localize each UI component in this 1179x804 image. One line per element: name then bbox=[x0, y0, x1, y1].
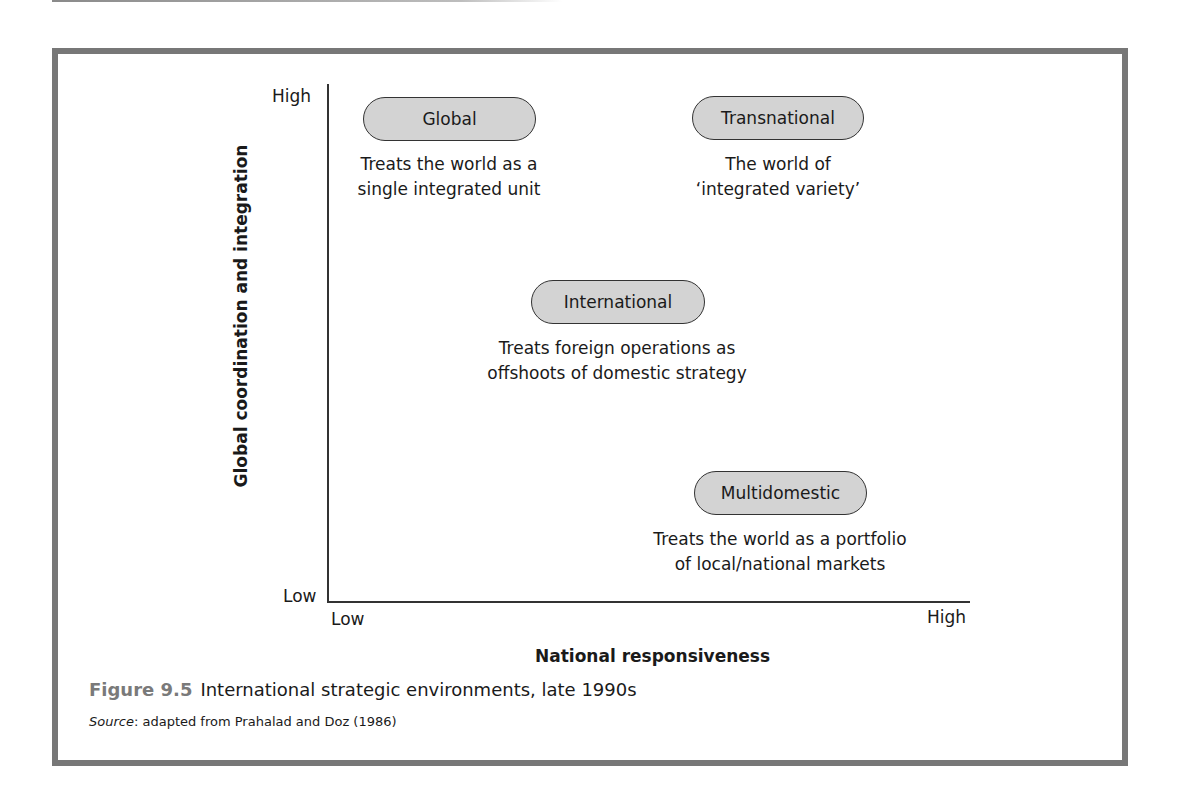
multidomestic-description-line-2: of local/national markets bbox=[653, 552, 906, 577]
transnational-description-line-1: The world of bbox=[696, 152, 860, 177]
y-axis-line bbox=[327, 84, 329, 603]
transnational-description: The world of ‘integrated variety’ bbox=[696, 152, 860, 202]
figure-source: Source: adapted from Prahalad and Doz (1… bbox=[89, 714, 397, 729]
international-description: Treats foreign operations as offshoots o… bbox=[487, 336, 746, 386]
source-text: : adapted from Prahalad and Doz (1986) bbox=[134, 714, 397, 729]
multidomestic-description-line-1: Treats the world as a portfolio bbox=[653, 527, 906, 552]
transnational-description-line-2: ‘integrated variety’ bbox=[696, 177, 860, 202]
y-tick-high: High bbox=[272, 86, 311, 106]
figure-title: International strategic environments, la… bbox=[200, 679, 636, 700]
multidomestic-description: Treats the world as a portfolio of local… bbox=[653, 527, 906, 577]
source-label: Source bbox=[89, 714, 134, 729]
page-top-rule bbox=[52, 0, 562, 2]
x-tick-low: Low bbox=[331, 609, 364, 629]
y-tick-low: Low bbox=[283, 586, 316, 606]
global-description-line-2: single integrated unit bbox=[358, 177, 541, 202]
figure-caption: Figure 9.5International strategic enviro… bbox=[89, 679, 637, 700]
figure-number: Figure 9.5 bbox=[89, 679, 192, 700]
transnational-pill: Transnational bbox=[692, 96, 864, 140]
global-description-line-1: Treats the world as a bbox=[358, 152, 541, 177]
x-axis-line bbox=[327, 601, 970, 603]
y-axis-label: Global coordination and integration bbox=[231, 145, 251, 488]
x-tick-high: High bbox=[927, 607, 966, 627]
multidomestic-pill: Multidomestic bbox=[694, 471, 867, 515]
global-pill: Global bbox=[363, 97, 536, 141]
global-description: Treats the world as a single integrated … bbox=[358, 152, 541, 202]
x-axis-label: National responsiveness bbox=[535, 646, 770, 666]
international-pill: International bbox=[531, 280, 705, 324]
international-description-line-1: Treats foreign operations as bbox=[487, 336, 746, 361]
international-description-line-2: offshoots of domestic strategy bbox=[487, 361, 746, 386]
